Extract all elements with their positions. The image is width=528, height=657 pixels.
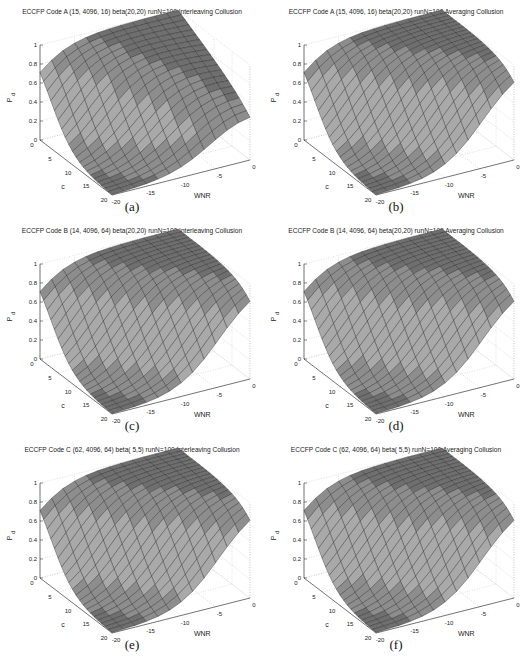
svg-text:-15: -15: [146, 190, 155, 196]
svg-text:15: 15: [347, 402, 354, 408]
svg-text:0: 0: [298, 575, 302, 581]
svg-text:15: 15: [347, 183, 354, 189]
surface-plot: 00.20.40.60.81Pd05101520c-20-15-10-50WNR: [0, 438, 264, 657]
svg-text:0.6: 0.6: [293, 518, 302, 524]
svg-text:0.2: 0.2: [293, 337, 302, 343]
svg-text:10: 10: [329, 170, 336, 176]
subplot-caption: (a): [0, 199, 264, 215]
svg-text:-10: -10: [181, 182, 190, 188]
surface: [304, 229, 514, 413]
svg-text:1: 1: [34, 480, 38, 486]
svg-text:WNR: WNR: [194, 192, 211, 199]
svg-text:WNR: WNR: [194, 411, 211, 418]
svg-text:0.8: 0.8: [293, 280, 302, 286]
svg-text:WNR: WNR: [458, 411, 475, 418]
svg-text:-5: -5: [481, 392, 487, 398]
svg-text:0.4: 0.4: [293, 537, 302, 543]
svg-text:WNR: WNR: [458, 192, 475, 199]
subplot-panel-f: ECCFP Code C (62, 4096, 64) beta( 5,5) r…: [264, 438, 528, 657]
svg-text:0.2: 0.2: [29, 556, 38, 562]
svg-text:-10: -10: [445, 182, 454, 188]
svg-text:P: P: [6, 316, 13, 321]
svg-text:0: 0: [516, 602, 520, 608]
svg-text:0.6: 0.6: [29, 518, 38, 524]
svg-text:10: 10: [65, 170, 72, 176]
surface-plot: 00.20.40.60.81Pd05101520c-20-15-10-50WNR: [264, 219, 528, 438]
svg-text:d: d: [10, 312, 16, 315]
svg-text:5: 5: [48, 594, 52, 600]
svg-text:0.8: 0.8: [293, 499, 302, 505]
svg-text:-5: -5: [481, 611, 487, 617]
svg-text:0.8: 0.8: [293, 61, 302, 67]
svg-text:1: 1: [298, 480, 302, 486]
svg-text:15: 15: [347, 621, 354, 627]
svg-text:-15: -15: [146, 409, 155, 415]
subplot-caption: (d): [264, 418, 528, 434]
svg-text:-5: -5: [217, 392, 223, 398]
svg-text:0.2: 0.2: [293, 118, 302, 124]
svg-text:c: c: [61, 621, 65, 628]
svg-text:0.2: 0.2: [293, 556, 302, 562]
surface: [40, 10, 250, 194]
surface: [304, 448, 514, 632]
svg-text:P: P: [270, 535, 277, 540]
svg-text:10: 10: [329, 389, 336, 395]
svg-text:-10: -10: [181, 401, 190, 407]
svg-text:0: 0: [298, 356, 302, 362]
svg-text:0.4: 0.4: [293, 99, 302, 105]
svg-text:d: d: [274, 312, 280, 315]
svg-text:-5: -5: [217, 611, 223, 617]
svg-text:d: d: [274, 93, 280, 96]
svg-text:-5: -5: [217, 173, 223, 179]
svg-text:0.6: 0.6: [293, 299, 302, 305]
surface-plot: 00.20.40.60.81Pd05101520c-20-15-10-50WNR: [0, 0, 264, 219]
svg-text:-15: -15: [410, 409, 419, 415]
svg-text:0.6: 0.6: [29, 80, 38, 86]
subplot-panel-b: ECCFP Code A (15, 4096, 16) beta(20,20) …: [264, 0, 528, 219]
subplot-caption: (b): [264, 199, 528, 215]
svg-text:-15: -15: [146, 628, 155, 634]
svg-text:-10: -10: [445, 620, 454, 626]
subplot-panel-a: ECCFP Code A (15, 4096, 16) beta(20,20) …: [0, 0, 264, 219]
svg-text:-10: -10: [445, 401, 454, 407]
svg-text:0.8: 0.8: [29, 61, 38, 67]
svg-text:0: 0: [516, 383, 520, 389]
svg-text:P: P: [6, 97, 13, 102]
svg-text:0.4: 0.4: [293, 318, 302, 324]
svg-text:P: P: [270, 97, 277, 102]
svg-text:0: 0: [298, 137, 302, 143]
svg-text:0.2: 0.2: [29, 337, 38, 343]
svg-text:10: 10: [329, 608, 336, 614]
svg-text:0.8: 0.8: [29, 280, 38, 286]
surface: [40, 229, 250, 413]
subplot-panel-e: ECCFP Code C (62, 4096, 64) beta( 5,5) r…: [0, 438, 264, 657]
svg-text:5: 5: [312, 156, 316, 162]
svg-text:d: d: [10, 93, 16, 96]
svg-text:-15: -15: [410, 628, 419, 634]
svg-text:0.2: 0.2: [29, 118, 38, 124]
svg-text:c: c: [325, 183, 329, 190]
svg-text:-10: -10: [181, 620, 190, 626]
svg-text:0: 0: [252, 383, 256, 389]
svg-text:-5: -5: [481, 173, 487, 179]
svg-text:5: 5: [48, 375, 52, 381]
svg-text:0.4: 0.4: [29, 318, 38, 324]
svg-text:c: c: [325, 402, 329, 409]
svg-text:0.6: 0.6: [29, 299, 38, 305]
svg-text:10: 10: [65, 389, 72, 395]
svg-text:1: 1: [298, 42, 302, 48]
svg-text:WNR: WNR: [458, 630, 475, 637]
svg-text:WNR: WNR: [194, 630, 211, 637]
surface-plot: 00.20.40.60.81Pd05101520c-20-15-10-50WNR: [0, 219, 264, 438]
surface: [40, 448, 250, 632]
svg-text:5: 5: [48, 156, 52, 162]
svg-text:P: P: [270, 316, 277, 321]
subplot-caption: (e): [0, 637, 264, 653]
surface-plot: 00.20.40.60.81Pd05101520c-20-15-10-50WNR: [264, 0, 528, 219]
svg-text:0: 0: [252, 164, 256, 170]
subplot-panel-d: ECCFP Code B (14, 4096, 64) beta(20,20) …: [264, 219, 528, 438]
svg-text:0.4: 0.4: [29, 537, 38, 543]
svg-text:0.6: 0.6: [293, 80, 302, 86]
svg-text:0: 0: [34, 575, 38, 581]
svg-text:-15: -15: [410, 190, 419, 196]
